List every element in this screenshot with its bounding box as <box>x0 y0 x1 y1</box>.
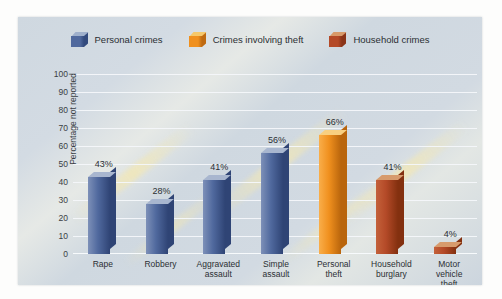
x-axis-category-label: Simpleassault <box>252 259 300 279</box>
bar-side-face <box>283 143 289 249</box>
bar-front-face <box>203 180 225 254</box>
bar-front-face <box>376 180 398 254</box>
bar-group[interactable]: 4%Motorvehicletheft <box>434 74 462 254</box>
y-axis-tick-label: 30 <box>59 195 68 205</box>
bar-side-face <box>225 170 231 249</box>
legend-label: Household crimes <box>353 34 429 45</box>
bar-side-face <box>398 170 404 249</box>
bar-group[interactable]: 66%Personaltheft <box>319 74 347 254</box>
bar-side-face <box>341 125 347 249</box>
y-axis-tick-label: 50 <box>59 159 68 169</box>
bar-value-label: 4% <box>430 229 470 239</box>
bar-group[interactable]: 41%Householdburglary <box>376 74 404 254</box>
y-axis-tick-label: 80 <box>59 105 68 115</box>
x-axis-category-label: Robbery <box>137 259 185 269</box>
bar-value-label: 41% <box>199 162 239 172</box>
legend-label: Personal crimes <box>95 34 163 45</box>
x-axis-category-label: Rape <box>79 259 127 269</box>
legend-item: Personal crimes <box>71 32 163 47</box>
bar[interactable] <box>376 180 404 254</box>
bar-value-label: 43% <box>84 159 124 169</box>
x-axis-category-label: Personaltheft <box>310 259 358 279</box>
bar[interactable] <box>203 180 231 254</box>
bar[interactable] <box>319 135 347 254</box>
x-axis-category-label: Motorvehicletheft <box>425 259 473 285</box>
y-axis-tick-label: 20 <box>59 213 68 223</box>
y-axis-tick-label: 90 <box>59 87 68 97</box>
y-axis-tick-label: 60 <box>59 141 68 151</box>
y-axis-tick-label: 10 <box>59 231 68 241</box>
plot-area: 1009080706050403020100 Percentage not re… <box>73 74 477 254</box>
legend-cube-icon <box>329 32 346 47</box>
bar-value-label: 28% <box>142 186 182 196</box>
bar[interactable] <box>88 177 116 254</box>
bar-group[interactable]: 41%Aggravatedassault <box>203 74 231 254</box>
y-axis-tick-label: 100 <box>54 69 68 79</box>
y-axis-tick-label: 40 <box>59 177 68 187</box>
bar-series: 43%Rape28%Robbery41%Aggravatedassault56%… <box>73 74 477 254</box>
y-axis-tick-label: 0 <box>63 249 68 259</box>
legend-label: Crimes involving theft <box>213 34 304 45</box>
bar[interactable] <box>146 204 174 254</box>
bar-group[interactable]: 56%Simpleassault <box>261 74 289 254</box>
bar[interactable] <box>261 153 289 254</box>
legend-item: Crimes involving theft <box>189 32 304 47</box>
bar-front-face <box>261 153 283 254</box>
bar-value-label: 41% <box>372 162 412 172</box>
bar-value-label: 56% <box>257 135 297 145</box>
bar[interactable] <box>434 247 462 254</box>
bar-front-face <box>434 247 456 254</box>
bar-group[interactable]: 43%Rape <box>88 74 116 254</box>
x-axis-category-label: Aggravatedassault <box>194 259 242 279</box>
bar-front-face <box>319 135 341 254</box>
bar-front-face <box>146 204 168 254</box>
chart-panel: Personal crimesCrimes involving theftHou… <box>18 17 482 285</box>
legend-item: Household crimes <box>329 32 429 47</box>
bar-group[interactable]: 28%Robbery <box>146 74 174 254</box>
x-axis-category-label: Householdburglary <box>367 259 415 279</box>
bar-front-face <box>88 177 110 254</box>
bar-side-face <box>110 167 116 249</box>
legend-cube-icon <box>71 32 88 47</box>
y-axis-tick-label: 70 <box>59 123 68 133</box>
chart-legend: Personal crimesCrimes involving theftHou… <box>18 27 482 51</box>
legend-cube-icon <box>189 32 206 47</box>
bar-value-label: 66% <box>315 117 355 127</box>
